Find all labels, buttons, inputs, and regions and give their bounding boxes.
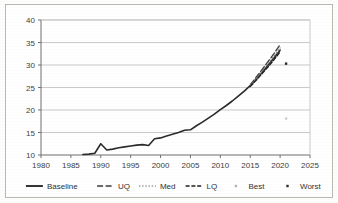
legend-item-worst[interactable]: Worst xyxy=(286,182,321,191)
x-tick-label-1995: 1995 xyxy=(122,161,140,170)
legend-item-best[interactable]: Best xyxy=(235,182,265,191)
series-line-baseline xyxy=(83,50,280,154)
data-marker-worst xyxy=(285,62,287,64)
x-tick-label-2015: 2015 xyxy=(241,161,259,170)
y-tick-label-20: 20 xyxy=(26,106,35,115)
legend-label-baseline: Baseline xyxy=(47,182,78,191)
legend-label-worst: Worst xyxy=(300,182,322,191)
x-tick-label-1985: 1985 xyxy=(62,161,80,170)
x-tick-label-2025: 2025 xyxy=(301,161,319,170)
line-chart: 1015202530354019801985199019952000200520… xyxy=(0,0,338,203)
legend-label-lq: LQ xyxy=(207,182,218,191)
legend-swatch-best-icon xyxy=(235,185,237,187)
x-tick-label-1990: 1990 xyxy=(92,161,110,170)
legend-swatch-worst-icon xyxy=(286,185,288,187)
y-tick-label-25: 25 xyxy=(26,84,35,93)
x-tick-label-2010: 2010 xyxy=(211,161,229,170)
series-line-med xyxy=(250,48,280,86)
x-tick-label-2020: 2020 xyxy=(271,161,289,170)
y-tick-label-10: 10 xyxy=(26,151,35,160)
legend-label-uq: UQ xyxy=(118,182,130,191)
y-tick-label-35: 35 xyxy=(26,39,35,48)
legend-item-uq[interactable]: UQ xyxy=(97,182,130,191)
y-tick-label-40: 40 xyxy=(26,16,35,25)
legend-label-best: Best xyxy=(248,182,265,191)
y-tick-label-15: 15 xyxy=(26,129,35,138)
y-tick-label-30: 30 xyxy=(26,61,35,70)
x-tick-label-2005: 2005 xyxy=(182,161,200,170)
legend-item-baseline[interactable]: Baseline xyxy=(26,182,78,191)
x-tick-label-2000: 2000 xyxy=(152,161,170,170)
x-tick-label-1980: 1980 xyxy=(32,161,50,170)
chart-figure: 1015202530354019801985199019952000200520… xyxy=(0,0,338,203)
legend-item-med[interactable]: Med xyxy=(139,182,176,191)
data-marker-best xyxy=(285,117,287,119)
legend-label-med: Med xyxy=(160,182,176,191)
legend-item-lq[interactable]: LQ xyxy=(186,182,218,191)
